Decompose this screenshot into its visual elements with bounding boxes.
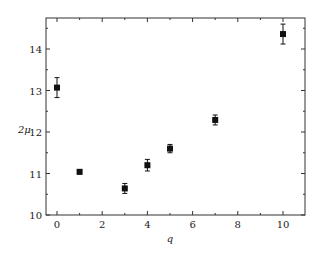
y-tick-label: 12 — [29, 127, 42, 138]
plot-frame — [46, 18, 305, 215]
x-tick-label: 0 — [54, 219, 60, 230]
x-tick-label: 6 — [189, 219, 195, 230]
data-point-square — [280, 31, 286, 37]
chart: 02468101011121314q2μ — [0, 0, 323, 258]
y-axis-title: 2μ — [17, 124, 31, 135]
data-point-square — [54, 85, 60, 91]
y-tick-label: 10 — [29, 210, 42, 221]
data-point-square — [167, 146, 173, 152]
data-point-square — [122, 185, 128, 191]
x-tick-label: 8 — [235, 219, 241, 230]
x-axis-title: q — [167, 233, 173, 244]
x-tick-label: 2 — [99, 219, 105, 230]
x-tick-label: 10 — [277, 219, 290, 230]
data-point-square — [212, 117, 218, 123]
y-tick-label: 13 — [29, 86, 42, 97]
data-point-square — [77, 169, 83, 175]
y-tick-label: 14 — [29, 44, 42, 55]
x-tick-label: 4 — [144, 219, 150, 230]
data-point-square — [144, 162, 150, 168]
y-tick-label: 11 — [29, 169, 42, 180]
